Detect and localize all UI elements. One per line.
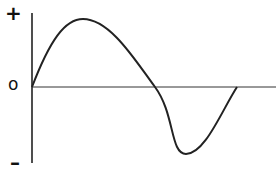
positive-label: + xyxy=(5,3,22,23)
negative-label: – xyxy=(10,152,20,172)
zero-label: o xyxy=(8,76,18,93)
sine-wave-diagram xyxy=(0,0,276,173)
